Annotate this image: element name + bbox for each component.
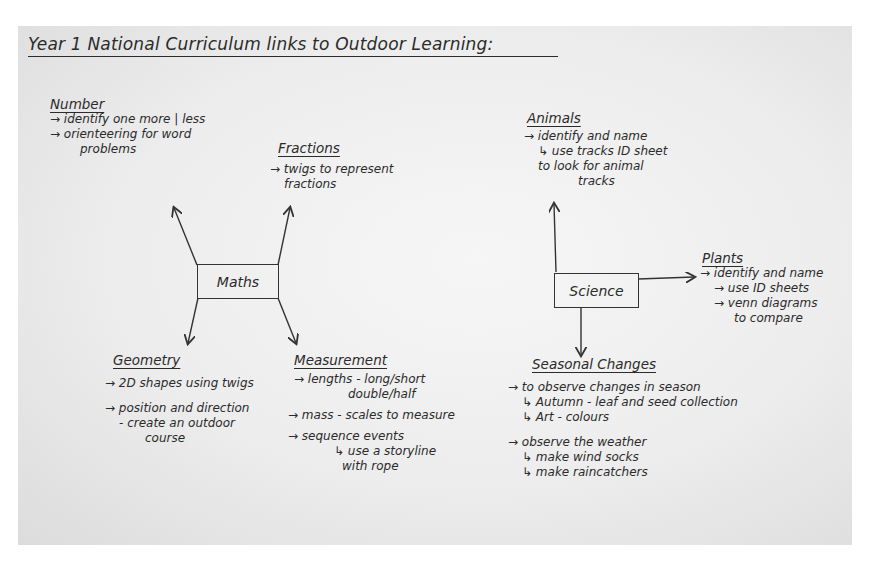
seasonal-item: ↳ Autumn - leaf and seed collection xyxy=(508,395,738,410)
number-item: → orienteering for word xyxy=(50,127,205,142)
measurement-item: → mass - scales to measure xyxy=(288,408,455,423)
seasonal-item: ↳ make raincatchers xyxy=(508,465,738,480)
plants-item: → identify and name xyxy=(700,266,823,281)
plants-item: → venn diagrams xyxy=(700,296,823,311)
number-item: problems xyxy=(50,142,205,157)
number-heading: Number xyxy=(50,96,205,112)
maths-label: Maths xyxy=(217,274,259,290)
seasonal-item: → to observe changes in season xyxy=(508,380,738,395)
fractions-item: → twigs to represent xyxy=(270,162,393,177)
science-label: Science xyxy=(569,283,623,299)
measurement-item: ↳ use a storyline xyxy=(288,444,455,459)
seasonal-item: ↳ make wind socks xyxy=(508,450,738,465)
measurement-item: → sequence events xyxy=(288,429,455,444)
fractions-heading: Fractions xyxy=(270,140,393,156)
seasonal-changes-heading: Seasonal Changes xyxy=(508,356,738,372)
animals-item: → identify and name xyxy=(524,129,667,144)
measurement-item: → lengths - long/short xyxy=(288,372,455,387)
seasonal-changes-section: Seasonal Changes → to observe changes in… xyxy=(508,356,738,480)
geometry-heading: Geometry xyxy=(105,352,254,368)
fractions-item: fractions xyxy=(270,177,393,192)
plants-section: Plants → identify and name → use ID shee… xyxy=(700,250,823,326)
geometry-item: → 2D shapes using twigs xyxy=(105,376,254,391)
animals-section: Animals → identify and name ↳ use tracks… xyxy=(524,110,667,189)
geometry-item: → position and direction xyxy=(105,401,254,416)
seasonal-item: → observe the weather xyxy=(508,435,738,450)
plants-item: to compare xyxy=(700,311,823,326)
maths-box: Maths xyxy=(197,264,279,299)
seasonal-item: ↳ Art - colours xyxy=(508,410,738,425)
animals-item: to look for animal xyxy=(524,159,667,174)
measurement-item: double/half xyxy=(288,387,455,402)
animals-item: ↳ use tracks ID sheet xyxy=(524,144,667,159)
fractions-section: Fractions → twigs to represent fractions xyxy=(270,140,393,192)
plants-item: → use ID sheets xyxy=(700,281,823,296)
animals-heading: Animals xyxy=(524,110,667,126)
measurement-section: Measurement → lengths - long/short doubl… xyxy=(288,352,455,474)
measurement-heading: Measurement xyxy=(288,352,455,368)
science-box: Science xyxy=(554,273,639,308)
geometry-section: Geometry → 2D shapes using twigs → posit… xyxy=(105,352,254,446)
geometry-item: - create an outdoor xyxy=(105,416,254,431)
number-item: → identify one more | less xyxy=(50,112,205,127)
animals-item: tracks xyxy=(524,174,667,189)
number-section: Number → identify one more | less → orie… xyxy=(50,96,205,157)
measurement-item: with rope xyxy=(288,459,455,474)
plants-heading: Plants xyxy=(700,250,823,266)
geometry-item: course xyxy=(105,431,254,446)
